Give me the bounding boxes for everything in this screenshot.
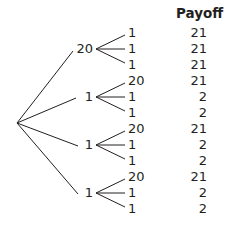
leaf-3-2: 1 (128, 137, 136, 153)
leaf-4-3: 1 (128, 201, 136, 217)
leaf-3-1: 20 (128, 121, 145, 137)
payoff-header: Payoff (176, 5, 223, 21)
payoff-3-1: 21 (177, 121, 207, 137)
root-edge-1 (17, 51, 73, 123)
payoff-1-2: 21 (177, 41, 207, 57)
leaf-2-3: 1 (128, 105, 136, 121)
payoff-4-1: 21 (177, 169, 207, 185)
leaf-1-2: 1 (128, 41, 136, 57)
branch-node-2: 1 (71, 89, 93, 105)
leaf-4-2: 1 (128, 185, 136, 201)
leaf-3-3: 1 (128, 153, 136, 169)
payoff-1-1: 21 (177, 25, 207, 41)
root-edge-3 (17, 123, 78, 146)
payoff-2-1: 21 (177, 73, 207, 89)
branch-node-4: 1 (71, 185, 93, 201)
payoff-4-2: 2 (177, 185, 207, 201)
leaf-4-1: 20 (128, 169, 145, 185)
leaf-2-1: 20 (128, 73, 145, 89)
branch-node-1: 20 (71, 41, 93, 57)
payoff-4-3: 2 (177, 201, 207, 217)
payoff-2-2: 2 (177, 89, 207, 105)
payoff-3-3: 2 (177, 153, 207, 169)
leaf-1-1: 1 (128, 25, 136, 41)
leaf-2-2: 1 (128, 89, 136, 105)
payoff-1-3: 21 (177, 57, 207, 73)
branch-node-3: 1 (71, 137, 93, 153)
payoff-3-2: 2 (177, 137, 207, 153)
payoff-2-3: 2 (177, 105, 207, 121)
root-edge-4 (17, 123, 78, 194)
root-edge-2 (17, 98, 76, 123)
leaf-1-3: 1 (128, 57, 136, 73)
